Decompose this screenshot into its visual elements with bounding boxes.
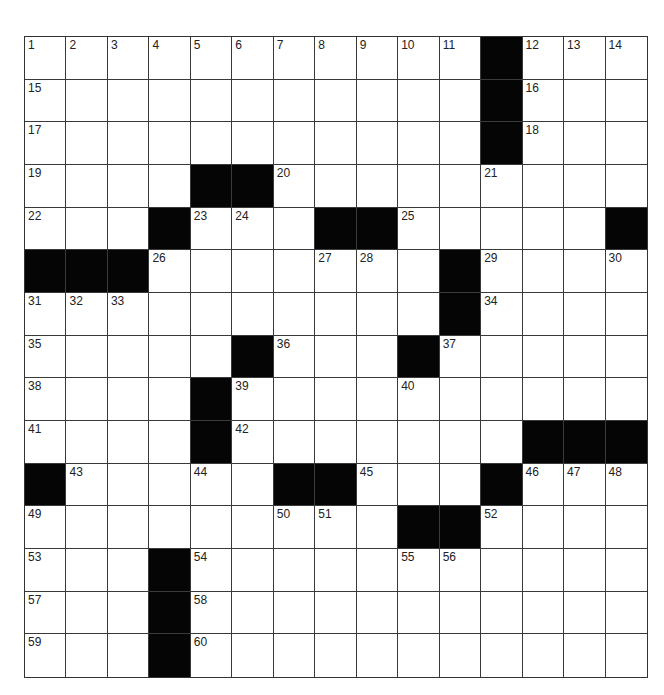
grid-cell[interactable] [232, 293, 273, 336]
grid-cell[interactable]: 31 [25, 293, 66, 336]
grid-cell[interactable]: 1 [25, 37, 66, 80]
grid-cell[interactable] [274, 208, 315, 251]
grid-cell[interactable] [523, 592, 564, 635]
grid-cell[interactable] [398, 634, 439, 677]
grid-cell[interactable] [149, 165, 190, 208]
grid-cell[interactable] [66, 592, 107, 635]
grid-cell[interactable] [564, 165, 605, 208]
grid-cell[interactable]: 21 [481, 165, 522, 208]
grid-cell[interactable] [398, 80, 439, 123]
grid-cell[interactable] [398, 165, 439, 208]
grid-cell[interactable] [481, 208, 522, 251]
grid-cell[interactable] [315, 549, 356, 592]
grid-cell[interactable] [357, 634, 398, 677]
grid-cell[interactable] [274, 122, 315, 165]
grid-cell[interactable] [606, 80, 647, 123]
grid-cell[interactable] [440, 122, 481, 165]
grid-cell[interactable]: 42 [232, 421, 273, 464]
grid-cell[interactable]: 49 [25, 506, 66, 549]
grid-cell[interactable]: 58 [191, 592, 232, 635]
grid-cell[interactable] [606, 634, 647, 677]
grid-cell[interactable] [481, 549, 522, 592]
grid-cell[interactable]: 24 [232, 208, 273, 251]
grid-cell[interactable]: 6 [232, 37, 273, 80]
grid-cell[interactable] [66, 421, 107, 464]
grid-cell[interactable] [232, 506, 273, 549]
grid-cell[interactable] [606, 336, 647, 379]
grid-cell[interactable] [274, 549, 315, 592]
grid-cell[interactable]: 45 [357, 464, 398, 507]
grid-cell[interactable] [357, 80, 398, 123]
grid-cell[interactable] [564, 250, 605, 293]
grid-cell[interactable] [191, 506, 232, 549]
grid-cell[interactable] [481, 634, 522, 677]
grid-cell[interactable] [149, 464, 190, 507]
grid-cell[interactable] [232, 250, 273, 293]
grid-cell[interactable] [274, 80, 315, 123]
grid-cell[interactable] [564, 592, 605, 635]
grid-cell[interactable]: 26 [149, 250, 190, 293]
grid-cell[interactable] [315, 634, 356, 677]
grid-cell[interactable] [149, 80, 190, 123]
grid-cell[interactable] [440, 421, 481, 464]
grid-cell[interactable] [232, 464, 273, 507]
grid-cell[interactable]: 14 [606, 37, 647, 80]
grid-cell[interactable]: 27 [315, 250, 356, 293]
grid-cell[interactable]: 13 [564, 37, 605, 80]
grid-cell[interactable]: 10 [398, 37, 439, 80]
grid-cell[interactable] [606, 165, 647, 208]
grid-cell[interactable] [108, 592, 149, 635]
grid-cell[interactable] [398, 250, 439, 293]
grid-cell[interactable] [108, 208, 149, 251]
grid-cell[interactable] [315, 165, 356, 208]
grid-cell[interactable] [315, 122, 356, 165]
grid-cell[interactable]: 48 [606, 464, 647, 507]
grid-cell[interactable] [564, 122, 605, 165]
grid-cell[interactable] [440, 208, 481, 251]
grid-cell[interactable]: 7 [274, 37, 315, 80]
grid-cell[interactable] [481, 336, 522, 379]
grid-cell[interactable] [191, 336, 232, 379]
grid-cell[interactable] [108, 464, 149, 507]
grid-cell[interactable] [315, 293, 356, 336]
grid-cell[interactable] [357, 421, 398, 464]
grid-cell[interactable] [606, 122, 647, 165]
grid-cell[interactable]: 36 [274, 336, 315, 379]
grid-cell[interactable]: 35 [25, 336, 66, 379]
grid-cell[interactable]: 4 [149, 37, 190, 80]
grid-cell[interactable]: 3 [108, 37, 149, 80]
grid-cell[interactable] [606, 592, 647, 635]
grid-cell[interactable] [523, 378, 564, 421]
grid-cell[interactable] [606, 549, 647, 592]
grid-cell[interactable]: 2 [66, 37, 107, 80]
grid-cell[interactable] [66, 506, 107, 549]
grid-cell[interactable] [108, 336, 149, 379]
grid-cell[interactable]: 38 [25, 378, 66, 421]
grid-cell[interactable] [523, 293, 564, 336]
grid-cell[interactable] [440, 592, 481, 635]
grid-cell[interactable] [398, 592, 439, 635]
grid-cell[interactable] [564, 208, 605, 251]
grid-cell[interactable]: 5 [191, 37, 232, 80]
grid-cell[interactable] [149, 293, 190, 336]
grid-cell[interactable] [440, 464, 481, 507]
grid-cell[interactable] [191, 250, 232, 293]
grid-cell[interactable]: 19 [25, 165, 66, 208]
grid-cell[interactable] [315, 336, 356, 379]
grid-cell[interactable]: 43 [66, 464, 107, 507]
grid-cell[interactable]: 51 [315, 506, 356, 549]
grid-cell[interactable] [523, 336, 564, 379]
grid-cell[interactable] [315, 421, 356, 464]
grid-cell[interactable] [232, 592, 273, 635]
grid-cell[interactable] [398, 122, 439, 165]
grid-cell[interactable]: 30 [606, 250, 647, 293]
grid-cell[interactable] [564, 506, 605, 549]
grid-cell[interactable]: 25 [398, 208, 439, 251]
grid-cell[interactable] [66, 80, 107, 123]
grid-cell[interactable] [357, 549, 398, 592]
grid-cell[interactable] [108, 80, 149, 123]
grid-cell[interactable] [108, 165, 149, 208]
grid-cell[interactable] [66, 336, 107, 379]
grid-cell[interactable] [191, 293, 232, 336]
grid-cell[interactable] [108, 549, 149, 592]
